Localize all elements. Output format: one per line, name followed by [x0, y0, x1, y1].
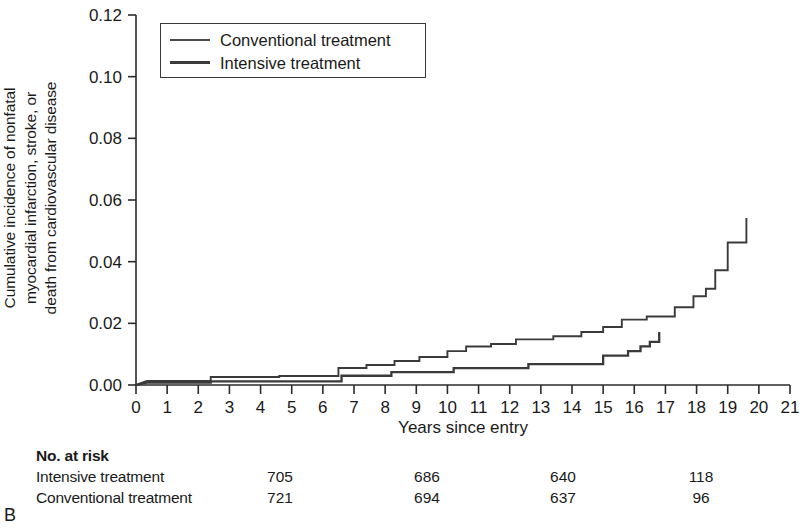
x-tick-label: 2 [194, 398, 203, 417]
x-tick-label: 21 [781, 398, 800, 417]
x-tick-label: 6 [318, 398, 327, 417]
risk-value: 694 [404, 489, 450, 507]
risk-value: 640 [540, 468, 586, 486]
legend-line-icon-intensive [170, 61, 210, 64]
y-axis-ticks: 0.000.020.040.060.080.100.12 [89, 6, 136, 395]
number-at-risk-table: No. at risk Intensive treatment 705 686 … [0, 447, 808, 509]
x-tick-label: 0 [131, 398, 140, 417]
x-tick-label: 14 [563, 398, 582, 417]
x-tick-label: 1 [162, 398, 171, 417]
x-tick-label: 10 [438, 398, 457, 417]
x-tick-label: 12 [500, 398, 519, 417]
panel-label: B [4, 505, 16, 526]
legend-line-icon-conventional [170, 39, 210, 41]
x-tick-label: 9 [412, 398, 421, 417]
x-tick-label: 5 [287, 398, 296, 417]
x-tick-label: 13 [531, 398, 550, 417]
y-tick-label: 0.04 [89, 253, 122, 272]
chart-series-group [136, 218, 746, 385]
risk-row-label-conventional: Conventional treatment [36, 489, 192, 507]
x-tick-label: 20 [749, 398, 768, 417]
y-tick-label: 0.02 [89, 314, 122, 333]
legend-label-intensive: Intensive treatment [220, 54, 360, 72]
x-axis-ticks: 0123456789101112131415161718192021 [131, 385, 799, 417]
y-tick-label: 0.08 [89, 129, 122, 148]
chart-legend: Conventional treatment Intensive treatme… [160, 23, 426, 78]
x-tick-label: 7 [349, 398, 358, 417]
risk-value: 705 [257, 468, 303, 486]
x-tick-label: 3 [225, 398, 234, 417]
risk-value: 721 [257, 489, 303, 507]
x-tick-label: 19 [718, 398, 737, 417]
x-tick-label: 4 [256, 398, 265, 417]
table-row: Intensive treatment 705 686 640 118 [0, 468, 808, 489]
legend-label-conventional: Conventional treatment [220, 31, 391, 49]
y-tick-label: 0.12 [89, 6, 122, 25]
risk-value: 686 [404, 468, 450, 486]
risk-row-label-intensive: Intensive treatment [36, 468, 164, 486]
series-line-conventional [136, 218, 746, 385]
number-at-risk-title: No. at risk [36, 447, 109, 465]
x-tick-label: 15 [594, 398, 613, 417]
risk-value: 637 [540, 489, 586, 507]
x-tick-label: 16 [625, 398, 644, 417]
x-tick-label: 8 [380, 398, 389, 417]
y-tick-label: 0.10 [89, 68, 122, 87]
x-axis-title: Years since entry [398, 418, 528, 437]
figure-panel-b: Cumulative incidence of nonfatal myocard… [0, 0, 808, 531]
x-tick-label: 11 [470, 398, 488, 417]
legend-item-intensive[interactable]: Intensive treatment [170, 51, 417, 74]
x-tick-label: 18 [687, 398, 706, 417]
legend-item-conventional[interactable]: Conventional treatment [170, 28, 417, 51]
y-tick-label: 0.06 [89, 191, 122, 210]
risk-value: 96 [678, 489, 724, 507]
y-tick-label: 0.00 [89, 376, 122, 395]
table-row: Conventional treatment 721 694 637 96 [0, 489, 808, 510]
risk-value: 118 [678, 468, 724, 486]
x-tick-label: 17 [656, 398, 675, 417]
